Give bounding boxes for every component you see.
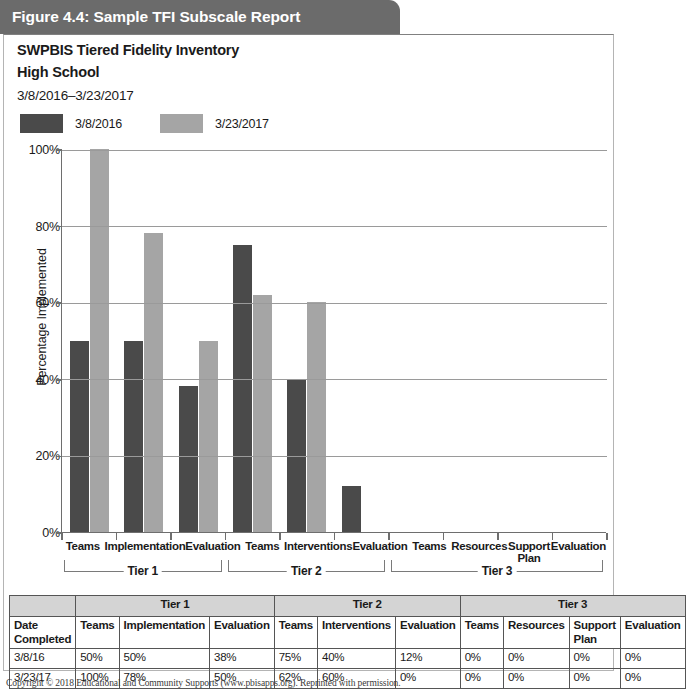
- copyright-notice: Copyright © 2018 Educational and Communi…: [6, 678, 401, 688]
- x-tick-mark: [116, 533, 118, 540]
- bar-chart: Percentage Implemented 0%20%40%60%80%100…: [0, 150, 614, 545]
- gridline: [62, 456, 607, 457]
- bar-series-1: [342, 486, 361, 532]
- y-tick-label: 20%: [18, 449, 60, 463]
- bar-series-2: [199, 341, 218, 533]
- table-group-header: Tier 1: [76, 596, 274, 617]
- bar-group: [116, 150, 170, 532]
- bar-group: [443, 150, 497, 532]
- x-tick-mark: [497, 533, 499, 540]
- table-head: Tier 1Tier 2Tier 3 Date CompletedTeamsIm…: [10, 596, 686, 649]
- tier-bracket-label: Tier 1: [123, 564, 162, 578]
- report-title: SWPBIS Tiered Fidelity Inventory: [17, 42, 239, 58]
- table-group-header: Tier 2: [274, 596, 460, 617]
- table-column-header: Implementation: [119, 617, 209, 649]
- x-tick-mark: [170, 533, 172, 540]
- x-axis-tick-marks: [61, 533, 606, 540]
- table-cell-value: 0%: [569, 649, 620, 669]
- plot-area: [61, 150, 606, 533]
- table-group-header-row: Tier 1Tier 2Tier 3: [10, 596, 686, 617]
- report-date-range: 3/8/2016–3/23/2017: [17, 88, 134, 103]
- bar-group: [171, 150, 225, 532]
- table-group-header-blank: [10, 596, 76, 617]
- x-tick-mark: [388, 533, 390, 540]
- chart-legend: 3/8/2016 3/23/2017: [20, 114, 269, 133]
- tier-bracket: Tier 1: [64, 560, 222, 572]
- y-axis-tick-mark: [56, 379, 62, 381]
- tier-bracket: Tier 2: [228, 560, 386, 572]
- table-group-header: Tier 3: [460, 596, 685, 617]
- legend-swatch-series-2: [160, 114, 203, 133]
- y-axis-tick-mark: [56, 226, 62, 228]
- bar-series-1: [70, 341, 89, 533]
- bar-group: [280, 150, 334, 532]
- x-tick-mark: [443, 533, 445, 540]
- table-cell-value: 0%: [460, 669, 503, 689]
- y-axis-tick-mark: [56, 302, 62, 304]
- bar-series-1: [233, 245, 252, 532]
- legend-item-series-1: 3/8/2016: [20, 114, 122, 133]
- report-subtitle: High School: [17, 64, 99, 80]
- y-axis-ticks: 0%20%40%60%80%100%: [8, 150, 60, 533]
- tier-bracket-label: Tier 3: [478, 564, 517, 578]
- bar-group: [334, 150, 388, 532]
- table-cell-date: 3/8/16: [10, 649, 76, 669]
- bar-series-1: [124, 341, 143, 533]
- table-column-header: Teams: [274, 617, 317, 649]
- x-tick-mark: [606, 533, 608, 540]
- bar-series-container: [62, 150, 606, 532]
- table-column-header: Evaluation: [620, 617, 685, 649]
- table-column-header: Date Completed: [10, 617, 76, 649]
- table-column-header: Teams: [76, 617, 119, 649]
- y-tick-label: 100%: [18, 143, 60, 157]
- table-cell-value: 0%: [620, 669, 685, 689]
- x-tick-mark: [225, 533, 227, 540]
- x-tick-mark: [61, 533, 63, 540]
- y-tick-label: 40%: [18, 373, 60, 387]
- bar-group: [62, 150, 116, 532]
- legend-label-series-1: 3/8/2016: [75, 117, 122, 131]
- table-cell-value: 50%: [119, 649, 209, 669]
- gridline: [62, 303, 607, 304]
- legend-swatch-series-1: [20, 114, 63, 133]
- table-column-header: Teams: [460, 617, 503, 649]
- table-row: 3/8/1650%50%38%75%40%12%0%0%0%0%: [10, 649, 686, 669]
- table-cell-value: 12%: [395, 649, 460, 669]
- bar-series-1: [179, 386, 198, 532]
- x-tick-mark: [334, 533, 336, 540]
- tier-brackets: Tier 1Tier 2Tier 3: [61, 560, 606, 582]
- gridline: [62, 226, 607, 227]
- table-column-header-row: Date CompletedTeamsImplementationEvaluat…: [10, 617, 686, 649]
- x-tick-mark: [552, 533, 554, 540]
- table-cell-value: 0%: [569, 669, 620, 689]
- table-cell-value: 0%: [460, 649, 503, 669]
- table-cell-value: 0%: [503, 649, 569, 669]
- y-axis-tick-mark: [56, 149, 62, 151]
- table-cell-value: 40%: [318, 649, 396, 669]
- y-tick-label: 60%: [18, 296, 60, 310]
- data-table: Tier 1Tier 2Tier 3 Date CompletedTeamsIm…: [9, 595, 686, 689]
- legend-label-series-2: 3/23/2017: [215, 117, 269, 131]
- x-tick-mark: [279, 533, 281, 540]
- table-column-header: Resources: [503, 617, 569, 649]
- figure-title: Figure 4.4: Sample TFI Subscale Report: [0, 8, 300, 26]
- bar-group: [497, 150, 551, 532]
- tier-bracket-label: Tier 2: [287, 564, 326, 578]
- bar-group: [552, 150, 606, 532]
- table-column-header: Evaluation: [395, 617, 460, 649]
- bar-group: [225, 150, 279, 532]
- table-column-header: Evaluation: [210, 617, 275, 649]
- table-cell-value: 75%: [274, 649, 317, 669]
- table-cell-value: 50%: [76, 649, 119, 669]
- y-axis-tick-mark: [56, 456, 62, 458]
- table-cell-value: 0%: [395, 669, 460, 689]
- bar-series-2: [307, 302, 326, 532]
- gridline: [62, 150, 607, 151]
- legend-item-series-2: 3/23/2017: [160, 114, 269, 133]
- table-column-header: Support Plan: [569, 617, 620, 649]
- table-cell-value: 38%: [210, 649, 275, 669]
- bar-series-2: [90, 149, 109, 532]
- table-cell-value: 0%: [620, 649, 685, 669]
- figure-title-bar: Figure 4.4: Sample TFI Subscale Report: [0, 0, 400, 34]
- bar-group: [388, 150, 442, 532]
